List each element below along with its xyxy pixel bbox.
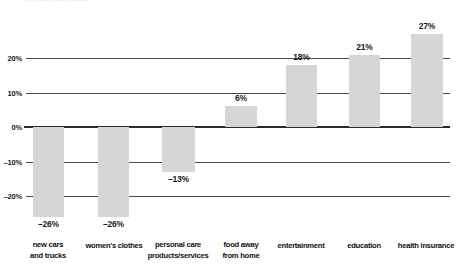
bar [162, 127, 195, 172]
bar-value-label: 21% [337, 42, 392, 52]
y-axis-tick-label: –20% [4, 192, 22, 201]
bar-value-label: 27% [399, 21, 455, 31]
bar-value-label: –26% [21, 219, 76, 229]
bar [98, 127, 129, 217]
bar-chart: — — —— —— 20%10%0%–10%–20% –26%–26%–13%6… [0, 0, 457, 272]
bar [286, 65, 317, 127]
bar [411, 34, 443, 127]
x-axis-category-label: education [333, 241, 395, 252]
gridline [26, 162, 450, 163]
y-axis-tick-label: –10% [4, 157, 22, 166]
plot-area: 20%10%0%–10%–20% –26%–26%–13%6%18%21%27% [0, 0, 457, 232]
bar-value-label: 18% [274, 52, 329, 62]
bar-value-label: –13% [150, 174, 207, 184]
x-axis-category-label: entertainment [266, 241, 336, 252]
x-axis-category-label: personal care products/services [142, 240, 214, 261]
gridline [26, 196, 450, 197]
x-axis-category-label: health insurance [390, 241, 457, 252]
bar [33, 127, 64, 217]
bar-value-label: –26% [86, 219, 141, 229]
x-axis-category-label: food away from home [210, 240, 272, 261]
bar-value-label: 6% [213, 93, 269, 103]
gridline [26, 58, 450, 59]
y-axis-tick-label: 10% [8, 88, 22, 97]
y-axis-tick-label: 0% [12, 123, 22, 132]
y-axis-tick-label: 20% [8, 54, 22, 63]
x-axis-category-label: women's clothes [79, 241, 149, 252]
x-axis-category-label: new cars and trucks [17, 240, 79, 261]
bar [225, 106, 257, 127]
bar [349, 55, 380, 127]
